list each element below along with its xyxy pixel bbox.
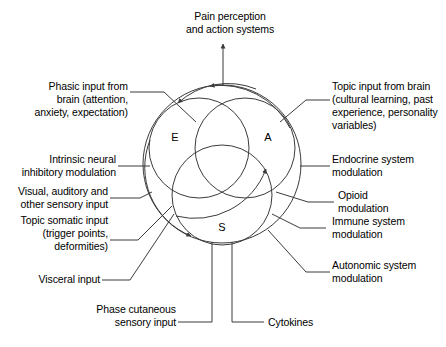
label-phasic-input-from-brain: Phasic input from brain (attention, anxi… bbox=[10, 80, 128, 119]
label-topic-input-from-brain: Topic input from brain (cultural learnin… bbox=[332, 80, 446, 132]
label-visceral-input: Visceral input bbox=[10, 273, 100, 286]
label-immune-system-modulation: Immune system modulation bbox=[332, 215, 442, 241]
leader-phase-cutaneous-sensory-input bbox=[178, 242, 212, 322]
leader-opioid-modulation bbox=[276, 192, 334, 202]
feedback-arc-left-lower bbox=[145, 140, 191, 236]
leader-autonomic-system-modulation bbox=[268, 230, 330, 272]
diagram-canvas: Pain perception and action systems E A S… bbox=[0, 0, 446, 347]
venn-circle-e bbox=[149, 98, 249, 198]
feedback-arc-top-outer bbox=[178, 84, 256, 103]
label-endocrine-system-modulation: Endocrine system modulation bbox=[332, 153, 442, 179]
leader-visceral-input bbox=[102, 214, 174, 280]
feedback-arc-top-inner bbox=[210, 85, 290, 128]
pain-perception-caption: Pain perception and action systems bbox=[155, 10, 305, 36]
label-topic-somatic-input: Topic somatic input (trigger points, def… bbox=[0, 214, 108, 253]
label-visual-auditory-other-sensory-input: Visual, auditory and other sensory input bbox=[0, 185, 108, 211]
leader-cytokines bbox=[232, 242, 264, 322]
label-autonomic-system-modulation: Autonomic system modulation bbox=[332, 259, 444, 285]
outer-circle bbox=[143, 85, 301, 243]
leader-topic-somatic-input bbox=[110, 206, 172, 240]
venn-label-s: S bbox=[212, 221, 232, 233]
leader-immune-system-modulation bbox=[272, 214, 326, 228]
feedback-arc-right bbox=[176, 169, 266, 218]
leader-visual-auditory-other-sensory-input bbox=[110, 192, 152, 198]
label-cytokines: Cytokines bbox=[268, 316, 348, 329]
label-intrinsic-neural-inhibitory-modulation: Intrinsic neural inhibitory modulation bbox=[0, 153, 116, 179]
leader-topic-input-from-brain bbox=[280, 100, 330, 122]
label-opioid-modulation: Opioid modulation bbox=[338, 189, 438, 215]
venn-label-a: A bbox=[258, 131, 278, 143]
venn-label-e: E bbox=[165, 131, 185, 143]
label-phase-cutaneous-sensory-input: Phase cutaneous sensory input bbox=[60, 303, 176, 329]
